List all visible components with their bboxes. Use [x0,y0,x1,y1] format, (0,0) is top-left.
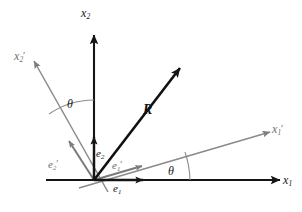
angle-label-theta-upper: θ [67,98,73,110]
basis-label-e2: e2 [96,148,104,161]
axis-label-x2-subscript: 2 [86,12,90,21]
basis-label-e2-prime: e2′ [48,159,58,172]
axis-label-x1-prime-mark: ′ [281,123,283,134]
basis-label-e1-subscript: 1 [118,188,121,195]
axis-label-x2-prime-mark: ′ [23,50,25,61]
basis-label-e1: e1 [113,183,121,196]
axis-label-x2: x2 [81,7,90,21]
basis-label-e1-prime: e1′ [112,160,122,173]
basis-label-e2-subscript: 2 [101,153,104,160]
axis-label-x1-prime: x1′ [272,123,283,137]
basis-label-e2-prime-mark: ′ [56,158,58,169]
angle-label-theta-lower: θ [168,165,174,177]
axis-x2-prime-line [34,61,108,192]
axis-label-x1-subscript: 1 [288,179,292,188]
axis-label-x1: x1 [283,174,292,188]
axis-label-x2-prime: x2′ [14,50,25,64]
figure-root: x2 x1 x2′ x1′ e1 e2 e1′ e2′ θ θ R [0,0,302,212]
vector-label-R: R [143,103,152,117]
basis-label-e1-prime-mark: ′ [120,159,122,170]
